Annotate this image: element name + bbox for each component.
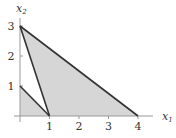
- feasible-region-diagram: 1 2 3 4 1 2 3 x1 x2: [0, 0, 176, 138]
- x-tick-label: 1: [46, 120, 53, 133]
- y-axis-label: x2: [16, 2, 27, 16]
- x-tick-label: 3: [105, 120, 112, 133]
- x-axis-label: x1: [162, 110, 173, 124]
- y-tick-label: 1: [8, 80, 15, 93]
- y-tick-label: 2: [8, 50, 15, 63]
- x-tick-label: 2: [76, 120, 83, 133]
- y-tick-label: 3: [8, 20, 15, 33]
- x-tick-label: 4: [135, 120, 142, 133]
